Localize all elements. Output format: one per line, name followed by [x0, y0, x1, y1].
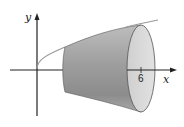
y-axis-label: y — [25, 12, 31, 23]
y-axis-arrow-icon — [35, 13, 40, 20]
generating-curve — [37, 47, 65, 68]
x-tick-label-6: 6 — [138, 74, 144, 84]
solid-of-revolution-diagram: y x 6 — [0, 0, 184, 127]
x-axis-label: x — [163, 74, 169, 85]
x-axis-arrow-icon — [170, 68, 177, 73]
